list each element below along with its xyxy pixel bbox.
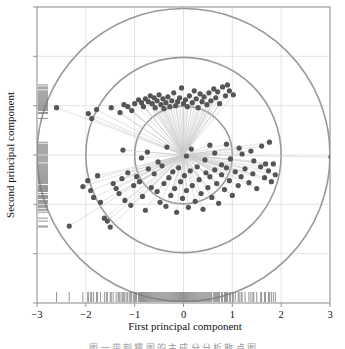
x-tick-label: −1 <box>129 309 140 320</box>
x-axis-title: First principal component <box>128 320 242 332</box>
y-axis-title: Second principal component <box>4 92 16 218</box>
figure-caption: 图 一 带 刺 猬 图 的 主 成 分 分 析 散 点 图 <box>0 342 345 349</box>
rug-plot-y <box>38 85 48 227</box>
x-tick-label: −2 <box>80 309 91 320</box>
x-tick-label: 2 <box>279 309 284 320</box>
pca-scatter-figure: −3−2−10123 First principal component Sec… <box>0 0 345 349</box>
x-tick-label: 0 <box>181 309 186 320</box>
x-tick-label: −3 <box>31 309 42 320</box>
pca-scatter-plot: −3−2−10123 First principal component Sec… <box>0 0 345 349</box>
x-tick-label: 3 <box>327 309 332 320</box>
x-tick-label: 1 <box>230 309 235 320</box>
